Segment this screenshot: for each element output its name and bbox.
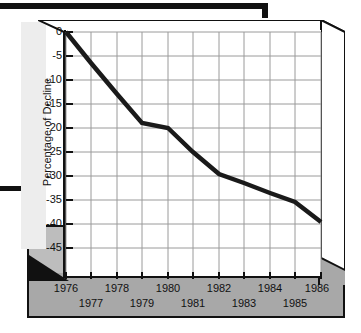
x-tick-label: 1978 xyxy=(105,282,129,294)
y-tick-label: -5 xyxy=(32,50,62,61)
y-tick-label: -45 xyxy=(32,242,62,253)
y-tick-label: 0 xyxy=(32,26,62,37)
y-tick-label: -10 xyxy=(32,74,62,85)
x-tick-label: 1980 xyxy=(156,282,180,294)
x-axis-ticks xyxy=(66,272,321,279)
x-tick-label: 1982 xyxy=(207,282,231,294)
left-rule-decoration xyxy=(0,186,22,191)
top-rule-drop-decoration xyxy=(262,3,268,18)
x-tick-label: 1984 xyxy=(258,282,282,294)
x-tick-label: 1979 xyxy=(130,297,154,309)
y-tick-label: -35 xyxy=(32,194,62,205)
x-tick-label: 1986 xyxy=(305,282,329,294)
y-axis-tick-labels: 0 -5 -10 -15 -20 -25 -30 -35 -40 -45 xyxy=(28,30,62,278)
x-tick-label: 1977 xyxy=(79,297,103,309)
x-tick-label: 1985 xyxy=(283,297,307,309)
top-rule-decoration xyxy=(0,3,268,9)
y-tick-label: -20 xyxy=(32,122,62,133)
y-tick-label: -25 xyxy=(32,146,62,157)
y-axis-ticks xyxy=(66,32,73,248)
x-tick-label: 1981 xyxy=(181,297,205,309)
chart-screenshot: Percentage of Decline 0 -5 -10 -15 -20 -… xyxy=(0,0,361,333)
x-axis-tick-labels: 1976 1977 1978 1979 1980 1981 1982 1983 … xyxy=(64,282,322,318)
plot-area xyxy=(64,30,321,278)
y-tick-label: -15 xyxy=(32,98,62,109)
plot-svg xyxy=(64,30,323,280)
y-tick-label: -40 xyxy=(32,218,62,229)
x-tick-label: 1976 xyxy=(54,282,78,294)
x-tick-label: 1983 xyxy=(232,297,256,309)
y-tick-label: -30 xyxy=(32,170,62,181)
